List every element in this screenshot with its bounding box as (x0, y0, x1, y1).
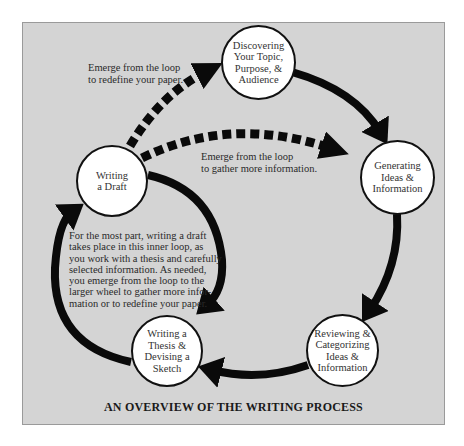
annotation-gather: Emerge from the loop to gather more info… (201, 151, 317, 174)
node-draft-label: Writing a Draft (96, 170, 128, 193)
node-reviewing: Reviewing & Categorizing Ideas & Informa… (306, 314, 379, 387)
node-thesis: Writing a Thesis & Devising a Sketch (131, 315, 203, 387)
arrow-generating-to-reviewing (370, 214, 397, 310)
annotation-redefine: Emerge from the loop to redefine your pa… (88, 62, 183, 85)
arrow-discovering-to-generating (292, 72, 380, 132)
node-reviewing-label: Reviewing & Categorizing Ideas & Informa… (314, 328, 370, 374)
node-discovering: Discovering Your Topic, Purpose, & Audie… (221, 25, 296, 100)
arrow-reviewing-to-thesis (212, 365, 308, 375)
node-generating-label: Generating Ideas & Information (372, 160, 422, 195)
diagram-title: AN OVERVIEW OF THE WRITING PROCESS (22, 400, 445, 415)
node-generating: Generating Ideas & Information (360, 140, 435, 215)
node-draft: Writing a Draft (76, 145, 148, 217)
node-thesis-label: Writing a Thesis & Devising a Sketch (144, 328, 189, 374)
node-discovering-label: Discovering Your Topic, Purpose, & Audie… (233, 40, 284, 86)
annotation-inner-loop: For the most part, writing a draft takes… (69, 230, 222, 309)
